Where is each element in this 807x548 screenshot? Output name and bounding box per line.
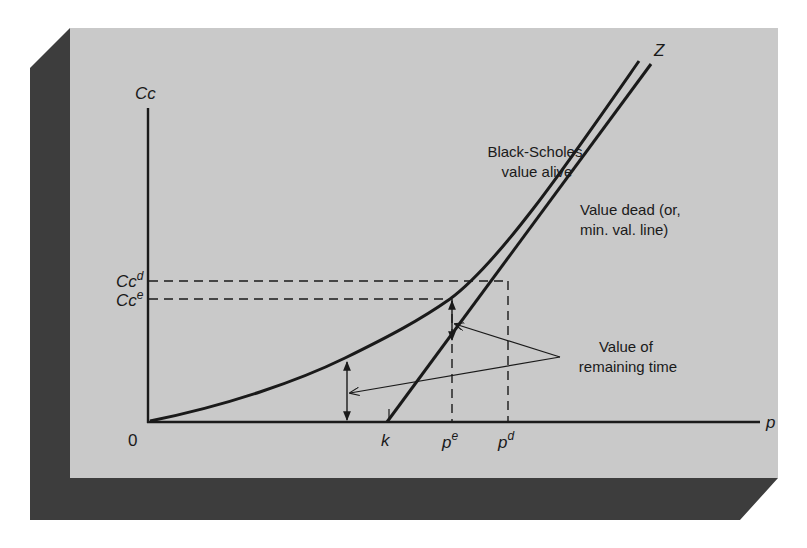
diagram-panel <box>70 28 778 478</box>
y-tick-ccd-sup: d <box>137 269 144 283</box>
bs-label-line1: Black-Scholes <box>487 143 582 160</box>
y-axis-label: Cc <box>135 84 156 103</box>
y-tick-cce-base: Cc <box>116 291 137 310</box>
option-value-diagram: Cc p 0 Ccd Cce k pe pd Z Black-Scholes v… <box>0 0 807 548</box>
remaining-label-line1: Value of <box>599 338 654 355</box>
x-axis-label: p <box>765 413 775 432</box>
x-tick-pd-base: p <box>497 433 507 452</box>
x-tick-pe-sup: e <box>451 429 458 443</box>
remaining-label-line2: remaining time <box>579 358 677 375</box>
dead-label-line1: Value dead (or, <box>580 201 681 218</box>
y-tick-cce-sup: e <box>137 288 144 302</box>
bs-label-line2: value alive <box>502 163 573 180</box>
dead-label-line2: min. val. line) <box>580 221 668 238</box>
y-tick-ccd-base: Cc <box>116 272 137 291</box>
curve-end-label: Z <box>653 41 665 60</box>
x-tick-pd-sup: d <box>507 429 514 443</box>
x-tick-pe-base: p <box>441 433 451 452</box>
origin-label: 0 <box>128 431 137 450</box>
